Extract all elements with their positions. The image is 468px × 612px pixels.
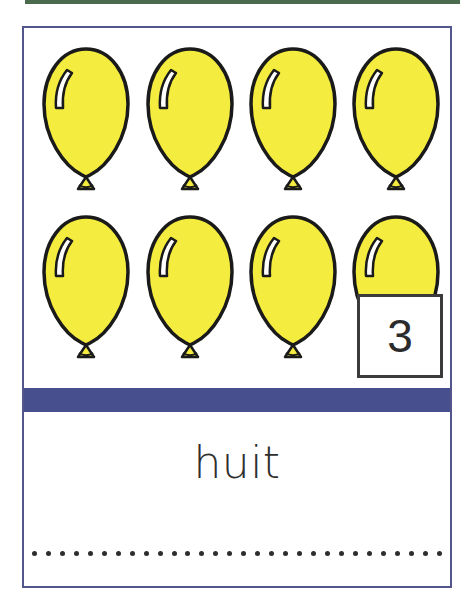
writing-line-dot [283, 551, 288, 556]
writing-line-dot [185, 551, 190, 556]
writing-line-dot [381, 551, 386, 556]
balloon-icon [350, 46, 442, 196]
balloon-icon [144, 46, 236, 196]
writing-line-dot [367, 551, 372, 556]
writing-line-dot [199, 551, 204, 556]
writing-line-dot [255, 551, 260, 556]
writing-line-dot [158, 551, 163, 556]
writing-line-dot [32, 551, 37, 556]
writing-line-dot [437, 551, 442, 556]
balloon-icon [144, 214, 236, 364]
writing-line-dot [227, 551, 232, 556]
word-zone: huit [24, 412, 450, 512]
writing-line-dot [144, 551, 149, 556]
writing-line-dot [88, 551, 93, 556]
writing-line-dot [339, 551, 344, 556]
writing-line-dot [130, 551, 135, 556]
word-label: huit [193, 437, 280, 488]
balloon-icon [40, 214, 132, 364]
writing-line-dot [172, 551, 177, 556]
balloon-icon [40, 46, 132, 196]
number-box[interactable]: 3 [357, 294, 443, 378]
green-rule [25, 0, 460, 4]
writing-line [32, 546, 442, 560]
balloon-icon [247, 46, 339, 196]
writing-line-dot [353, 551, 358, 556]
writing-line-dot [423, 551, 428, 556]
writing-line-dot [60, 551, 65, 556]
writing-line-dot [269, 551, 274, 556]
writing-line-dot [297, 551, 302, 556]
writing-line-dot [46, 551, 51, 556]
writing-line-dot [409, 551, 414, 556]
balloon-icon [247, 214, 339, 364]
writing-line-dot [395, 551, 400, 556]
writing-line-dot [116, 551, 121, 556]
writing-line-dot [213, 551, 218, 556]
writing-line-dot [74, 551, 79, 556]
writing-line-dot [241, 551, 246, 556]
writing-line-dot [102, 551, 107, 556]
writing-line-dot [325, 551, 330, 556]
number-box-value: 3 [387, 313, 413, 359]
blue-divider [24, 388, 450, 412]
writing-line-dot [311, 551, 316, 556]
flashcard: 3 huit [22, 26, 452, 588]
